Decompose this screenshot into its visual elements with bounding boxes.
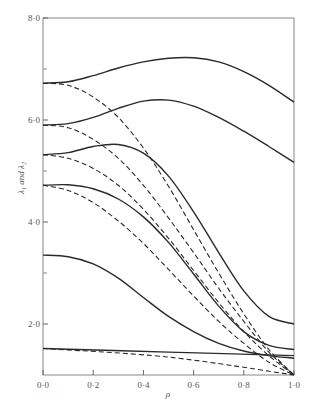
chart-canvas: 0·00·20·40·60·81·02·04·06·08·0 ρ λ₁ and … bbox=[0, 0, 313, 409]
plot-frame bbox=[43, 18, 294, 375]
x-tick-label: 0·8 bbox=[238, 380, 250, 390]
plot-series bbox=[43, 58, 294, 375]
axis-ticks: 0·00·20·40·60·81·02·04·06·08·0 bbox=[28, 13, 300, 390]
x-axis-label: ρ bbox=[165, 389, 171, 399]
series-dashed-2 bbox=[43, 125, 294, 375]
series-solid-4 bbox=[43, 185, 294, 350]
series-dashed-4 bbox=[43, 185, 294, 375]
series-solid-5 bbox=[43, 255, 294, 358]
y-tick-label: 4·0 bbox=[28, 217, 40, 227]
series-solid-2 bbox=[43, 100, 294, 163]
series-solid-3 bbox=[43, 144, 294, 324]
x-tick-label: 1·0 bbox=[288, 380, 300, 390]
series-dashed-1 bbox=[43, 83, 294, 375]
series-dashed-3 bbox=[43, 155, 294, 375]
series-solid-6 bbox=[43, 349, 294, 356]
series-solid-1 bbox=[43, 58, 294, 103]
y-tick-label: 6·0 bbox=[28, 115, 40, 125]
x-tick-label: 0·4 bbox=[137, 380, 149, 390]
y-tick-label: 8·0 bbox=[28, 13, 40, 23]
x-tick-label: 0·2 bbox=[87, 380, 99, 390]
y-axis-label: λ₁ and λ₂ bbox=[16, 162, 26, 195]
x-tick-label: 0·6 bbox=[188, 380, 200, 390]
plot-border bbox=[43, 18, 294, 375]
x-tick-label: 0·0 bbox=[37, 380, 49, 390]
y-tick-label: 2·0 bbox=[28, 319, 40, 329]
